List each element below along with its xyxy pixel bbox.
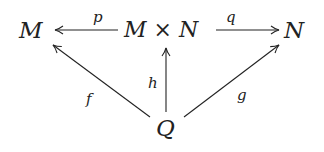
node-q: Q — [156, 117, 175, 140]
node-n: N — [284, 19, 304, 42]
node-m: M — [19, 19, 43, 42]
label-f: f — [86, 92, 92, 107]
node-product: M × N — [124, 19, 198, 41]
label-h: h — [148, 76, 158, 91]
commutative-diagram: M M × N N Q p q h f g — [0, 0, 324, 152]
arrow-g — [184, 45, 279, 117]
label-g: g — [237, 88, 247, 103]
label-p: p — [93, 10, 103, 25]
label-q: q — [226, 10, 236, 25]
arrow-f — [53, 45, 150, 117]
